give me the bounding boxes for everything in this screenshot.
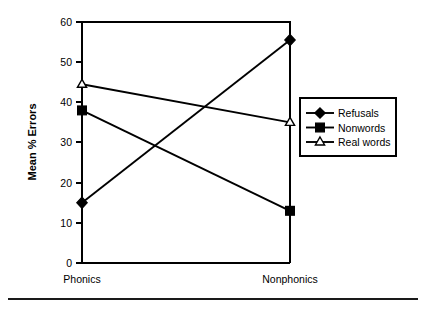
triangle-outline-marker-icon (77, 79, 86, 87)
series-refusals (77, 35, 295, 209)
y-axis-title: Mean % Errors (26, 103, 38, 180)
x-tick-label-phonics: Phonics (63, 273, 100, 285)
figure-container: 60 50 40 30 20 10 0 Mean % Errors Phonic… (0, 0, 426, 310)
legend-item-label: Real words (338, 136, 391, 148)
plot-frame (82, 22, 290, 263)
y-tick-label: 40 (60, 96, 72, 108)
series-real-words (77, 79, 294, 125)
chart-legend: Refusals Nonwords Real words (300, 98, 396, 156)
y-axis-ticks (76, 22, 82, 263)
y-tick-label: 50 (60, 56, 72, 68)
legend-item-label: Nonwords (338, 122, 385, 134)
y-axis-tick-labels: 60 50 40 30 20 10 0 (60, 16, 72, 269)
x-tick-label-nonphonics: Nonphonics (262, 273, 317, 285)
y-tick-label: 30 (60, 136, 72, 148)
legend-item-nonwords[interactable]: Nonwords (306, 122, 385, 134)
legend-item-label: Refusals (338, 107, 379, 119)
line-chart: 60 50 40 30 20 10 0 Mean % Errors Phonic… (0, 0, 426, 310)
y-tick-label: 60 (60, 16, 72, 28)
square-marker-icon (286, 206, 295, 215)
y-tick-label: 20 (60, 177, 72, 189)
y-tick-label: 0 (66, 257, 72, 269)
square-marker-icon (78, 106, 87, 115)
y-tick-label: 10 (60, 217, 72, 229)
square-marker-icon (316, 123, 325, 132)
